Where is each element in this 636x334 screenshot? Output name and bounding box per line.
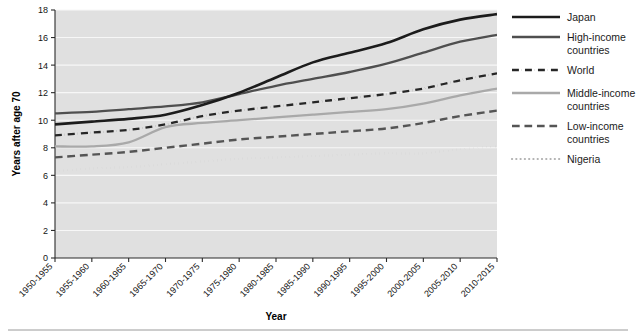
legend-label: Japan [567, 11, 596, 23]
legend-entry-low-income-countries[interactable]: Low-incomecountries [512, 120, 624, 145]
y-tick-label: 14 [38, 61, 48, 71]
x-tick-label: 2010-2015 [459, 261, 497, 299]
y-tick-label: 2 [43, 226, 48, 236]
y-axis-ticks: 024681012141618 [38, 5, 55, 263]
y-tick-label: 10 [38, 116, 48, 126]
x-tick-label: 1950-1955 [17, 261, 55, 299]
plot-background [55, 10, 497, 258]
x-axis-ticks: 1950-19551955-19601960-19651965-19701970… [17, 258, 497, 299]
legend-label: countries [567, 133, 610, 145]
x-tick-label: 1955-1960 [54, 261, 92, 299]
legend-label: High-income [567, 31, 626, 43]
x-tick-label: 2000-2005 [385, 261, 423, 299]
legend-entry-middle-income-countries[interactable]: Middle-incomecountries [512, 87, 635, 112]
x-tick-label: 1975-1980 [201, 261, 239, 299]
y-tick-label: 8 [43, 143, 48, 153]
chart-figure: 0246810121416181950-19551955-19601960-19… [0, 0, 636, 334]
legend-entry-japan[interactable]: Japan [512, 11, 596, 23]
x-tick-label: 1960-1965 [91, 261, 129, 299]
x-tick-label: 1970-1975 [164, 261, 202, 299]
y-axis-title: Years after age 70 [11, 91, 22, 176]
y-tick-label: 12 [38, 88, 48, 98]
legend-entry-world[interactable]: World [512, 64, 594, 76]
x-axis-title: Year [265, 311, 286, 322]
legend-label: Middle-income [567, 87, 635, 99]
legend-label: countries [567, 44, 610, 56]
legend-label: countries [567, 100, 610, 112]
legend-label: Low-income [567, 120, 624, 132]
x-tick-label: 1965-1970 [127, 261, 165, 299]
y-tick-label: 16 [38, 33, 48, 43]
y-tick-label: 18 [38, 5, 48, 15]
x-tick-label: 1980-1985 [238, 261, 276, 299]
y-tick-label: 4 [43, 198, 48, 208]
x-tick-label: 1995-2000 [348, 261, 386, 299]
x-tick-label: 1985-1990 [275, 261, 313, 299]
legend-label: Nigeria [567, 153, 600, 165]
x-tick-label: 1990-1995 [312, 261, 350, 299]
legend-entry-high-income-countries[interactable]: High-incomecountries [512, 31, 626, 56]
legend-label: World [567, 64, 594, 76]
legend-entry-nigeria[interactable]: Nigeria [512, 153, 600, 165]
x-tick-label: 2005-2010 [422, 261, 460, 299]
line-chart: 0246810121416181950-19551955-19601960-19… [0, 0, 636, 334]
legend: JapanHigh-incomecountriesWorldMiddle-inc… [512, 11, 635, 165]
y-tick-label: 6 [43, 171, 48, 181]
